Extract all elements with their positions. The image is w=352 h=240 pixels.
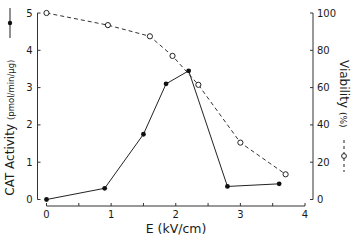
y2-label-main: Viability bbox=[337, 60, 351, 108]
x-tick-label: 0 bbox=[43, 209, 49, 220]
cat-activity-point bbox=[141, 132, 146, 137]
series-layer bbox=[44, 10, 288, 202]
viability-point bbox=[105, 23, 110, 28]
y2-tick-label: 0 bbox=[317, 194, 323, 205]
legend-marker-cat bbox=[8, 21, 12, 25]
viability-point bbox=[147, 34, 152, 39]
cat-activity-point bbox=[44, 197, 49, 202]
x-tick-label: 1 bbox=[108, 209, 114, 220]
viability-point bbox=[238, 140, 243, 145]
y-label-main: CAT Activity bbox=[3, 124, 17, 196]
viability-point bbox=[44, 10, 49, 15]
y-tick-label: 3 bbox=[26, 82, 32, 93]
legend-marker-viability bbox=[342, 154, 347, 159]
y-tick-label: 2 bbox=[26, 119, 32, 130]
axes: 01234502040608010001234 bbox=[26, 8, 336, 221]
cat-activity-point bbox=[186, 68, 191, 73]
x-axis-label: E (kV/cm) bbox=[146, 221, 207, 236]
y-tick-label: 4 bbox=[26, 45, 32, 56]
cat-activity-line bbox=[47, 71, 280, 200]
y-axis-label: CAT Activity (pmol/min/μg) bbox=[3, 8, 17, 196]
viability-line bbox=[47, 13, 286, 174]
x-tick-label: 2 bbox=[173, 209, 179, 220]
viability-point bbox=[196, 82, 201, 87]
cat-activity-point bbox=[277, 181, 282, 186]
cat-activity-point bbox=[225, 184, 230, 189]
viability-point bbox=[283, 172, 288, 177]
y-tick-label: 0 bbox=[26, 194, 32, 205]
y2-tick-label: 20 bbox=[317, 157, 330, 168]
y-tick-label: 5 bbox=[26, 8, 32, 19]
x-tick-label: 4 bbox=[302, 209, 308, 220]
y2-tick-label: 40 bbox=[317, 119, 330, 130]
x-tick-label: 3 bbox=[237, 209, 243, 220]
chart: 01234502040608010001234 CAT Activity (pm… bbox=[0, 0, 352, 240]
y-label-units: (pmol/min/μg) bbox=[6, 60, 16, 120]
y2-label-units: (%) bbox=[338, 112, 348, 128]
y2-tick-label: 100 bbox=[317, 8, 336, 19]
y2-tick-label: 80 bbox=[317, 45, 330, 56]
y2-axis-label: Viability (%) bbox=[337, 60, 351, 172]
cat-activity-point bbox=[164, 81, 169, 86]
cat-activity-point bbox=[102, 186, 107, 191]
y-tick-label: 1 bbox=[26, 157, 32, 168]
y2-tick-label: 60 bbox=[317, 82, 330, 93]
viability-point bbox=[170, 53, 175, 58]
